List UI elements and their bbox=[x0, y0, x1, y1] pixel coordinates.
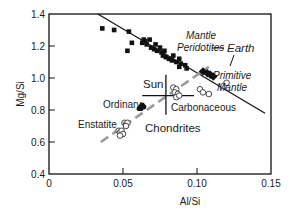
data-point bbox=[170, 58, 175, 63]
axes bbox=[49, 14, 271, 174]
tick-labels: 0.40.60.81.01.21.400.050.100.15 bbox=[31, 9, 281, 190]
data-point bbox=[117, 133, 123, 139]
annotation-primitive: Primitive bbox=[213, 70, 252, 81]
y-tick-label: 0.6 bbox=[31, 137, 45, 148]
leader-line-earth bbox=[230, 55, 234, 66]
data-point bbox=[153, 42, 158, 47]
x-tick-label: 0.15 bbox=[261, 178, 281, 189]
data-point bbox=[184, 66, 189, 71]
data-point bbox=[206, 91, 212, 97]
y-tick-label: 0.8 bbox=[31, 105, 45, 116]
x-tick-label: 0.10 bbox=[187, 178, 207, 189]
y-tick-label: 1.0 bbox=[31, 73, 45, 84]
series-mantle-peridotites bbox=[100, 26, 189, 71]
data-point bbox=[200, 90, 206, 96]
x-tick-label: 0 bbox=[46, 178, 52, 189]
data-point bbox=[176, 93, 182, 99]
annotation-earth: Earth bbox=[227, 42, 255, 54]
x-axis-label: Al/Si bbox=[180, 196, 201, 207]
data-point bbox=[125, 49, 130, 54]
annotation-sun: Sun bbox=[143, 78, 163, 90]
y-tick-label: 1.4 bbox=[31, 9, 45, 20]
y-tick-label: 1.2 bbox=[31, 41, 45, 52]
data-point bbox=[127, 29, 132, 34]
data-point bbox=[177, 57, 182, 62]
y-axis-label: Mg/Si bbox=[15, 81, 26, 107]
data-point bbox=[147, 37, 152, 42]
annotation-primitive-mantle: Mantle bbox=[217, 82, 247, 93]
chart: 0.40.60.81.01.21.400.050.100.15 Al/Si Mg… bbox=[0, 0, 292, 211]
annotation-carbonaceous: Carbonaceous bbox=[171, 102, 236, 113]
x-tick-label: 0.05 bbox=[113, 178, 133, 189]
series-enstatite-chondrites bbox=[116, 120, 130, 138]
plot-frame bbox=[49, 14, 271, 174]
data-point bbox=[144, 42, 149, 47]
annotation-mantle: Mantle bbox=[186, 30, 216, 41]
data-point bbox=[158, 45, 163, 50]
data-point bbox=[177, 65, 182, 70]
data-point bbox=[112, 28, 117, 33]
data-point bbox=[100, 26, 105, 31]
annotation-chondrites: Chondrites bbox=[145, 122, 201, 134]
annotation-enstatite: Enstatite bbox=[78, 119, 117, 130]
data-point bbox=[123, 123, 129, 129]
data-point bbox=[130, 41, 135, 46]
annotation-ordinary: Ordinary bbox=[103, 99, 141, 110]
data-point bbox=[162, 49, 167, 54]
data-point bbox=[171, 53, 176, 58]
y-tick-label: 0.4 bbox=[31, 169, 45, 180]
